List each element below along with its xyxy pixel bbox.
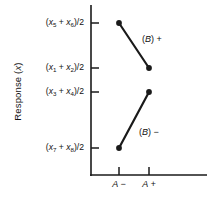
- series-line-b-minus: [119, 92, 149, 148]
- series-b-minus-point-1: [146, 89, 152, 95]
- series-line-b-plus: [119, 23, 149, 68]
- series-b-plus-point-1: [146, 65, 152, 71]
- x-tick-label-1: A +: [129, 179, 169, 189]
- series-b-plus-suffix: ) +: [151, 34, 162, 44]
- series-label-b-plus: (B) +: [142, 34, 162, 44]
- series-b-plus-point-0: [116, 20, 122, 26]
- series-b-minus-point-0: [116, 145, 122, 151]
- series-label-b-minus: (B) −: [139, 127, 159, 137]
- factorial-interaction-plot: Response (x) (x5 + x6)/2 (x1 + x2)/2 (x3…: [0, 0, 215, 203]
- series-b-minus-suffix: ) −: [148, 127, 159, 137]
- plot-canvas: [0, 0, 215, 203]
